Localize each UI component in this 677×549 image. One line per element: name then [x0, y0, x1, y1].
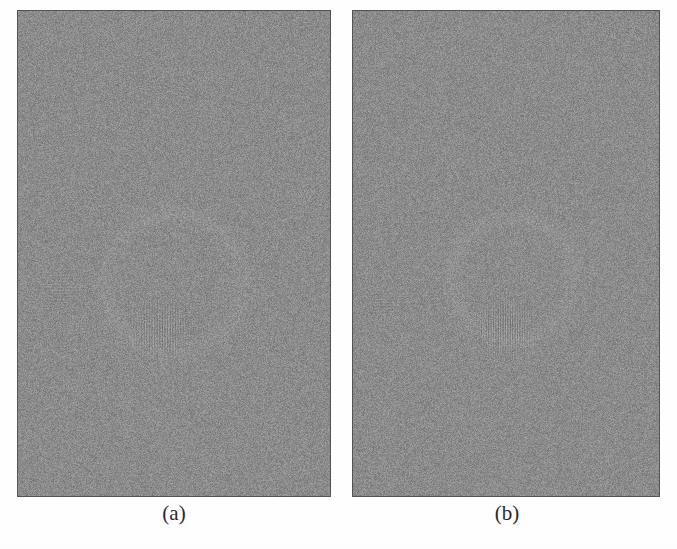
- panel-b-caption: (b): [447, 503, 567, 524]
- noise-canvas-b: [352, 10, 660, 497]
- noise-canvas-a: [17, 10, 331, 497]
- noise-image-a: [17, 10, 331, 497]
- noise-image-b: [352, 10, 660, 497]
- figure-root: (a) (b): [0, 0, 677, 549]
- figure-panel-b: [352, 10, 660, 497]
- figure-panel-a: [17, 10, 331, 497]
- panel-a-caption: (a): [114, 503, 234, 524]
